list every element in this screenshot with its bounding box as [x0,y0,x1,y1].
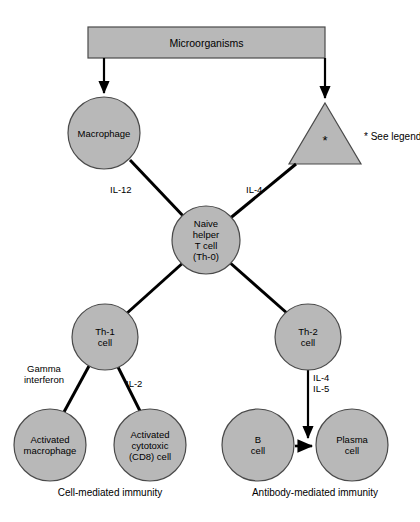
antigen-asterisk-label: * [313,134,337,147]
edge-naive-t-to-th1 [126,261,185,314]
edge-naive-t-to-th2 [228,261,288,314]
macrophage-shape [68,97,140,169]
activated-cytotoxic-shape [114,409,186,481]
edge-label-il-2: IL-2 [126,378,162,389]
b-cell-shape [222,409,294,481]
edge-label-il-4-il-5: IL-4 IL-5 [313,372,349,394]
th2-cell-shape [275,304,341,370]
immunity-pathway-diagram: Microorganisms Macrophage * Naive helper… [0,0,420,522]
edge-label-il-4-top: IL-4 [246,184,286,195]
caption-cell-mediated-immunity: Cell-mediated immunity [20,487,200,498]
activated-macrophage-shape [14,409,86,481]
microorganisms-label: Microorganisms [88,27,325,58]
th1-cell-shape [72,304,138,370]
plasma-cell-shape [316,409,388,481]
naive-t-cell-shape [172,206,240,274]
edge-th1-to-activated-cytotoxic [118,367,140,411]
diagram-canvas [0,0,420,522]
edge-label-gamma-interferon: Gamma interferon [8,363,80,385]
edge-label-il-12: IL-12 [110,184,150,195]
caption-antibody-mediated-immunity: Antibody-mediated immunity [215,487,415,498]
see-legend-note: * See legend [364,131,420,142]
